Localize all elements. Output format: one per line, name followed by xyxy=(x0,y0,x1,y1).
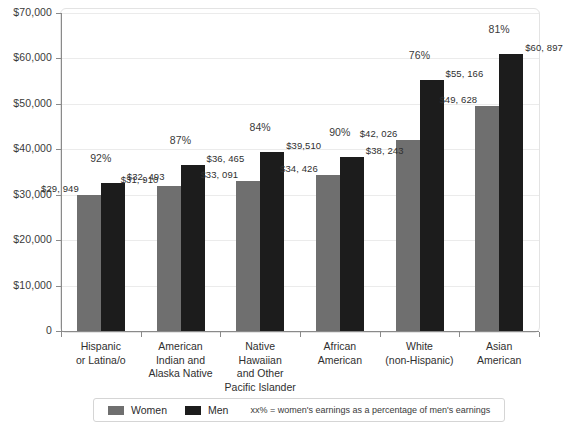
value-label-women: $34, 426 xyxy=(272,163,318,174)
legend-swatch-men-icon xyxy=(185,406,201,415)
bar-men xyxy=(260,152,284,331)
value-label-women: $31, 910 xyxy=(113,174,159,185)
x-axis-tick xyxy=(539,332,540,337)
legend-item-men: Men xyxy=(185,404,228,416)
category-label: Native Hawaiian and Other Pacific Island… xyxy=(216,340,304,394)
category-label: Asian American xyxy=(455,340,543,367)
x-axis-tick xyxy=(141,332,142,337)
value-label-women: $33, 091 xyxy=(192,169,238,180)
bar-men xyxy=(181,165,205,331)
category-label: Hispanic or Latina/o xyxy=(57,340,145,367)
category-label: White (non-Hispanic) xyxy=(376,340,464,367)
bar-men xyxy=(340,157,364,331)
value-label-men: $36, 465 xyxy=(207,153,245,164)
ratio-label: 76% xyxy=(380,49,460,61)
bar-women xyxy=(316,175,340,331)
x-axis-tick xyxy=(61,332,62,337)
legend-label-women: Women xyxy=(131,404,167,416)
legend-item-women: Women xyxy=(108,404,167,416)
legend-note: xx% = women's earnings as a percentage o… xyxy=(250,405,490,415)
bar-men xyxy=(101,183,125,331)
ratio-label: 90% xyxy=(300,126,380,138)
category-label: American Indian and Alaska Native xyxy=(137,340,225,381)
category-label: African American xyxy=(296,340,384,367)
value-label-women: $29, 949 xyxy=(33,183,79,194)
x-axis-tick xyxy=(459,332,460,337)
bar-women xyxy=(396,140,420,331)
bar-men xyxy=(420,80,444,331)
legend-label-men: Men xyxy=(208,404,228,416)
x-axis-tick xyxy=(300,332,301,337)
value-label-men: $55, 166 xyxy=(446,68,484,79)
chart-legend: Women Men xx% = women's earnings as a pe… xyxy=(93,398,505,422)
value-label-men: $39,510 xyxy=(286,140,321,151)
value-label-men: $38, 243 xyxy=(366,145,404,156)
ratio-label: 92% xyxy=(61,152,141,164)
bar-men xyxy=(499,54,523,331)
bar-women xyxy=(475,106,499,331)
bar-women xyxy=(157,186,181,331)
x-axis-tick xyxy=(220,332,221,337)
ratio-label: 84% xyxy=(220,121,300,133)
legend-swatch-women-icon xyxy=(108,406,124,415)
bar-women xyxy=(77,195,101,331)
ratio-label: 81% xyxy=(459,23,539,35)
ratio-label: 87% xyxy=(141,134,221,146)
value-label-men: $60, 897 xyxy=(525,42,563,53)
bar-women xyxy=(236,181,260,331)
value-label-women: $49, 628 xyxy=(431,94,477,105)
x-axis-tick xyxy=(380,332,381,337)
